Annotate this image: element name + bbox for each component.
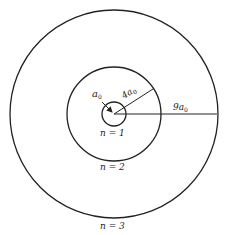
label-n1: n = 1 bbox=[100, 128, 125, 138]
label-a0: a0 bbox=[92, 88, 102, 100]
label-4a0: 4a0 bbox=[119, 84, 138, 102]
label-n2: n = 2 bbox=[100, 162, 125, 172]
label-9a0: 9a0 bbox=[173, 102, 188, 113]
label-n3: n = 3 bbox=[100, 221, 125, 231]
bohr-orbits-diagram: a0 4a0 9a0 n = 1 n = 2 n = 3 bbox=[0, 0, 225, 235]
